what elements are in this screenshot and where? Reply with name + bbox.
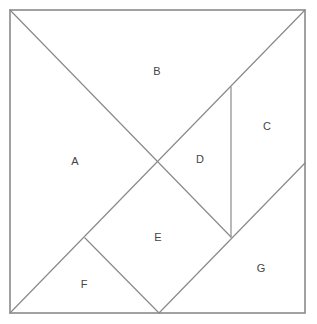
label-b: B	[153, 65, 160, 77]
label-d: D	[196, 153, 204, 165]
label-f: F	[81, 278, 88, 290]
label-e: E	[154, 231, 161, 243]
tangram-diagram: A B C D E F G	[0, 0, 317, 324]
label-c: C	[263, 120, 271, 132]
label-a: A	[71, 155, 79, 167]
label-g: G	[257, 262, 266, 274]
